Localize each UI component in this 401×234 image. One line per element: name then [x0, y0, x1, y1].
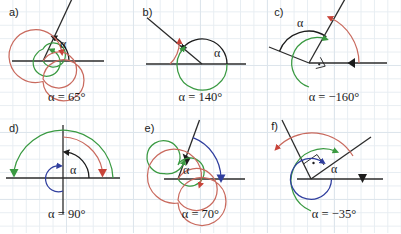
perpendicular-ray-f	[282, 120, 311, 179]
panel-label-d: d)	[9, 122, 19, 134]
axis-arrowhead-c	[348, 58, 356, 68]
green-arrowhead-d	[10, 169, 19, 178]
right-angle-dot-c	[318, 63, 320, 65]
panel-f: α f) α = −35°	[267, 117, 401, 234]
red-coterminal-arc-d	[63, 137, 102, 171]
panel-label-e: e)	[145, 122, 155, 134]
panel-b: α b) α = 140°	[134, 0, 268, 117]
panel-equation-e: α = 70°	[134, 207, 268, 222]
alpha-symbol-e: α	[183, 163, 190, 177]
panel-c: α c) α = −160°	[267, 0, 401, 117]
panel-equation-d: α = 90°	[0, 207, 134, 222]
initial-ray-c	[269, 47, 309, 63]
panel-label-f: f)	[271, 120, 278, 132]
red-coterminal-arc-c	[330, 18, 359, 63]
red-coterminal-arc-b	[170, 41, 179, 64]
alpha-symbol-b: α	[214, 46, 221, 60]
panel-e: α e) α = 70°	[134, 117, 268, 234]
panel-equation-b: α = 140°	[134, 90, 268, 105]
panel-a: α a) α = 65°	[0, 0, 134, 117]
angle-diagram-panels: α a) α = 65°	[0, 0, 401, 233]
panel-equation-c: α = −160°	[267, 90, 401, 105]
panel-label-a: a)	[9, 6, 19, 18]
right-angle-dot-f	[312, 161, 314, 163]
panel-d: α d) α = 90°	[0, 117, 134, 234]
red-coterminal-arc-f	[277, 132, 353, 155]
panel-label-c: c)	[274, 6, 283, 18]
panel-equation-a: α = 65°	[0, 90, 134, 105]
angle-arc-b	[182, 39, 226, 64]
alpha-symbol-f: α	[331, 162, 338, 176]
alpha-symbol-d: α	[70, 163, 77, 177]
panel-label-b: b)	[143, 6, 153, 18]
red-arrowhead-d	[98, 169, 107, 178]
panel-equation-f: α = −35°	[267, 207, 401, 222]
blue-inner-arc-d	[46, 165, 63, 191]
alpha-symbol-c: α	[297, 16, 304, 30]
alpha-symbol-a: α	[60, 37, 67, 51]
